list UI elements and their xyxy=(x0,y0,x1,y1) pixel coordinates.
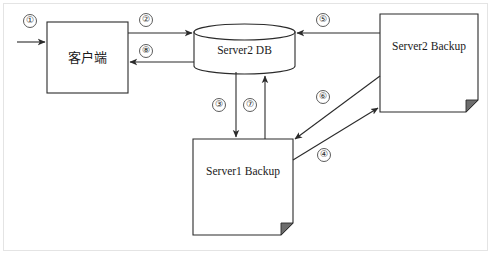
step-label-1: ① xyxy=(24,15,37,28)
server2-backup-label: Server2 Backup xyxy=(392,40,466,53)
step-6-text: ⑥ xyxy=(319,91,327,101)
step-7-text: ⑦ xyxy=(246,99,254,109)
step-label-2: ② xyxy=(140,14,153,27)
step-label-5: ⑤ xyxy=(317,14,330,27)
backup-flow-diagram: 客户端 Server2 DB Server1 Backup Server2 Ba… xyxy=(0,0,491,254)
connector-6-server2-backup-to-server1-backup xyxy=(295,76,380,139)
step-2-text: ② xyxy=(142,14,150,24)
step-4-text: ④ xyxy=(320,149,328,159)
server2-db-cylinder-top xyxy=(194,24,295,40)
node-server2-backup: Server2 Backup xyxy=(380,14,478,112)
diagram-canvas: 客户端 Server2 DB Server1 Backup Server2 Ba… xyxy=(0,0,491,254)
server2-backup-box xyxy=(380,14,478,112)
step-label-6: ⑥ xyxy=(317,91,330,104)
step-label-3: ③ xyxy=(213,99,226,112)
step-5-text: ⑤ xyxy=(319,14,327,24)
server1-backup-box xyxy=(193,139,293,235)
step-1-text: ① xyxy=(26,15,34,25)
node-client: 客户端 xyxy=(47,22,128,93)
step-label-7: ⑦ xyxy=(244,99,257,112)
server1-backup-label: Server1 Backup xyxy=(206,165,280,178)
node-server2-db: Server2 DB xyxy=(194,24,295,74)
step-label-4: ④ xyxy=(318,149,331,162)
step-8-text: ⑧ xyxy=(142,45,150,55)
server2-db-label: Server2 DB xyxy=(217,44,272,56)
step-3-text: ③ xyxy=(215,99,223,109)
server1-backup-fold-icon xyxy=(281,223,293,235)
node-server1-backup: Server1 Backup xyxy=(193,139,293,235)
server2-backup-fold-icon xyxy=(466,100,478,112)
client-label: 客户端 xyxy=(68,50,107,65)
step-label-8: ⑧ xyxy=(140,45,153,58)
connector-4-server1-backup-to-server2-backup xyxy=(293,108,378,160)
